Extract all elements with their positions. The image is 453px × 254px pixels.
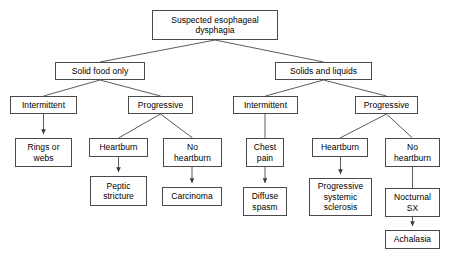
node-interm_r: Intermittent	[233, 96, 298, 114]
node-progr_r: Progressive	[355, 96, 418, 114]
e-progrl-heartburn	[119, 114, 161, 138]
node-heartburn_r: Heartburn	[312, 138, 368, 157]
node-solid: Solid food only	[55, 62, 145, 80]
node-no_heartburn_r: No heartburn	[385, 138, 440, 167]
node-chest_pain: Chest pain	[246, 138, 284, 167]
e-root-solids-liquids	[215, 40, 324, 62]
e-root-solid	[100, 40, 215, 62]
node-achalasia: Achalasia	[385, 230, 440, 249]
node-progr_l: Progressive	[128, 96, 193, 114]
e-sl-progr	[324, 80, 387, 96]
e-progrr-noheartburn	[387, 114, 413, 138]
node-rings: Rings or webs	[15, 138, 72, 167]
e-progrr-heartburn	[340, 114, 387, 138]
e-solid-progr	[100, 80, 161, 96]
node-pss: Progressive systemic sclerosis	[309, 178, 372, 216]
node-interm_l: Intermittent	[10, 96, 77, 114]
node-no_heartburn_l: No heartburn	[163, 138, 222, 167]
e-progrl-noheartburn	[161, 114, 193, 138]
node-solids_liquids: Solids and liquids	[275, 62, 372, 80]
e-solid-interm	[44, 80, 101, 96]
flowchart-canvas: Suspected esophageal dysphagiaSolid food…	[0, 0, 453, 254]
node-root: Suspected esophageal dysphagia	[152, 10, 278, 40]
e-sl-interm	[266, 80, 324, 96]
node-diffuse: Diffuse spasm	[243, 187, 287, 216]
node-heartburn_l: Heartburn	[89, 138, 148, 157]
node-peptic: Peptic stricture	[90, 176, 147, 206]
node-nocturnal: Nocturnal SX	[385, 188, 440, 217]
node-carcinoma: Carcinoma	[162, 187, 222, 206]
